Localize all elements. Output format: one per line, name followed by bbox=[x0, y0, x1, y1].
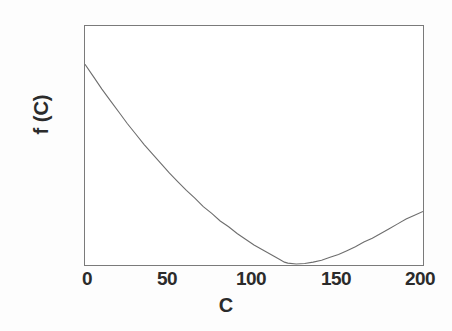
x-tick-label: 200 bbox=[405, 268, 435, 290]
x-tick-label: 150 bbox=[321, 268, 351, 290]
x-tick-label: 100 bbox=[236, 268, 266, 290]
y-axis-title: f (C) bbox=[30, 70, 53, 160]
x-tick-label: 50 bbox=[157, 268, 177, 290]
x-tick-label: 0 bbox=[82, 268, 92, 290]
plot-area bbox=[84, 25, 424, 266]
data-series-line bbox=[85, 64, 423, 264]
x-axis-title: C bbox=[0, 294, 452, 317]
figure-container: f (C) 2.5 2 1.5 1 0.5 0 0 50 100 150 200… bbox=[0, 0, 452, 331]
curve-svg bbox=[85, 26, 423, 265]
